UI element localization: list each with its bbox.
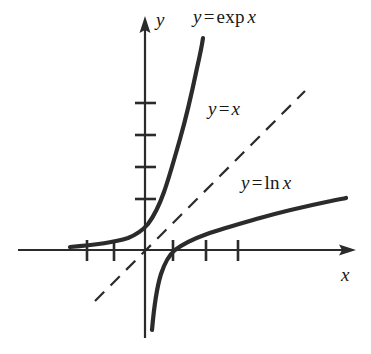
ln-label-arg: x <box>283 172 292 193</box>
exp-ln-graph-figure: y=expx y=x y=lnx y x <box>0 0 371 354</box>
identity-line-label: y=x <box>208 98 240 120</box>
x-axis-label: x <box>341 264 349 286</box>
ln-curve-label: y=lnx <box>241 172 291 194</box>
y-axis-label: y <box>156 9 164 31</box>
exp-label-function: exp <box>217 6 248 27</box>
linear-label-lhs: y <box>208 98 217 119</box>
exp-label-equals: = <box>202 6 217 27</box>
ln-curve <box>152 198 346 330</box>
plot-canvas <box>0 0 371 354</box>
ln-label-lhs: y <box>241 172 250 193</box>
exp-label-lhs: y <box>193 6 202 27</box>
ln-label-equals: = <box>250 172 265 193</box>
linear-label-equals: = <box>217 98 232 119</box>
linear-label-arg: x <box>232 98 241 119</box>
identity-line-dashed <box>95 91 305 301</box>
exp-curve-label: y=expx <box>193 6 256 28</box>
ln-label-function: ln <box>265 172 283 193</box>
y-axis <box>140 16 151 338</box>
exp-label-arg: x <box>248 6 257 27</box>
exp-curve <box>70 38 203 247</box>
